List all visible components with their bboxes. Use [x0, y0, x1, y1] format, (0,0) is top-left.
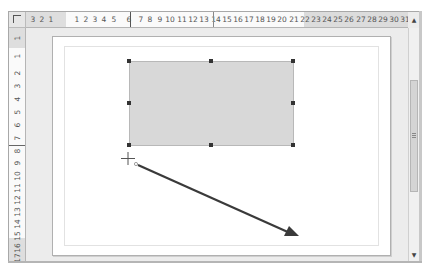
scroll-up-button[interactable]: ▲ [409, 13, 419, 27]
window-right-edge [419, 11, 422, 262]
scroll-down-button[interactable]: ▼ [409, 250, 419, 260]
arrow-line-shape[interactable] [138, 165, 299, 236]
window-bottom-edge [8, 261, 422, 263]
crosshair-cursor-icon [121, 152, 138, 166]
vertical-scrollbar[interactable]: ▼ [408, 28, 419, 261]
scrollbar-thumb[interactable] [410, 80, 418, 192]
grip-icon [412, 133, 416, 138]
drawing-overlay [0, 0, 434, 274]
